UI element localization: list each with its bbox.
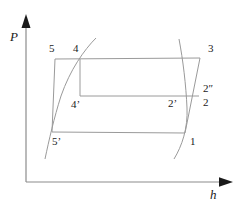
state-point-2-double-prime: 2″ [203,83,213,94]
state-point-5-prime: 5’ [52,136,61,147]
state-point-4-prime: 4’ [71,99,80,110]
saturation-curves-group [45,38,187,159]
state-point-2-prime: 2’ [168,98,177,109]
pressure-axis-label: P [10,30,18,43]
pressure-axis-arrowhead [22,14,31,28]
state-point-3: 3 [208,43,214,54]
state-point-4: 4 [73,43,79,54]
ph-diagram-figure: P h 5 4 3 2″ 2 2’ 4’ 5’ 1 [0,0,245,210]
enthalpy-axis-arrowhead [219,177,233,187]
state-point-1: 1 [190,136,196,147]
enthalpy-axis-label: h [210,188,217,201]
state-point-2: 2 [203,97,209,108]
cycle-outline-group [52,58,200,133]
state-point-5: 5 [49,43,55,54]
